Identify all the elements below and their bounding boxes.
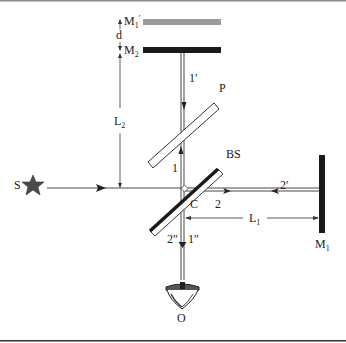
label-distance-d: d <box>116 28 122 42</box>
beam-splitter-plate <box>150 169 223 236</box>
label-length-l1: L1 <box>249 211 260 227</box>
label-compensator-p: P <box>219 81 226 95</box>
label-beam-1-double-prime: 1″ <box>188 232 199 246</box>
arrow-l2-down <box>118 183 122 188</box>
label-mirror-m2: M2 <box>124 43 139 59</box>
label-point-c: C <box>190 197 198 211</box>
label-observer-o: O <box>177 311 186 325</box>
compensator-plate-p <box>148 103 219 168</box>
arrow-beam-1-up <box>179 146 184 154</box>
label-length-l2: L2 <box>114 114 125 130</box>
arrow-l1-right <box>313 216 319 220</box>
label-beam-2-double-prime: 2″ <box>167 232 178 246</box>
arrow-d-up <box>118 19 122 24</box>
light-source-star-icon <box>22 175 44 195</box>
michelson-interferometer-diagram: M1′ d M2 1′ P L2 1 BS 2′ S C 2 L1 M1 2″ … <box>0 0 346 343</box>
label-beam-1-prime: 1′ <box>189 71 198 85</box>
virtual-mirror-m1-prime <box>143 19 221 25</box>
arrow-l2-up <box>118 53 122 58</box>
arrow-output-down <box>179 242 187 248</box>
arrow-d-down <box>118 46 122 51</box>
observer-detector-icon <box>166 282 199 309</box>
bottom-rule <box>0 340 346 342</box>
label-beam-2-prime: 2′ <box>280 178 289 192</box>
label-beam-1: 1 <box>172 161 178 175</box>
label-mirror-m1-prime: M1′ <box>124 14 141 30</box>
label-source-s: S <box>14 178 21 192</box>
mirror-m2 <box>143 47 221 53</box>
arrow-l1-left <box>185 216 191 220</box>
arrow-beam-1-prime-down <box>182 102 187 110</box>
mirror-m1 <box>319 155 325 233</box>
label-mirror-m1: M1 <box>315 237 330 253</box>
label-beam-2: 2 <box>215 197 221 211</box>
label-beam-splitter: BS <box>226 147 241 161</box>
top-rule <box>0 0 346 2</box>
